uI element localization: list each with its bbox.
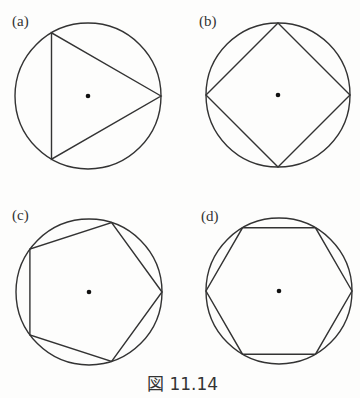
center-point-a [86, 94, 91, 99]
panel-b: (b) [199, 13, 350, 167]
panel-label-c: (c) [12, 207, 29, 224]
inscribed-pentagon [30, 223, 162, 362]
figure-caption: 図 11.14 [147, 374, 218, 394]
panel-label-d: (d) [201, 208, 219, 225]
panel-d: (d) [201, 208, 352, 364]
panel-a: (a) [12, 13, 161, 169]
panel-c: (c) [12, 207, 162, 365]
panel-label-b: (b) [199, 13, 217, 30]
center-point-c [87, 290, 92, 295]
figure-11-14: (a) (b) (c) (d) 図 11.14 [0, 0, 360, 398]
center-point-b [276, 93, 281, 98]
figure-canvas: (a) (b) (c) (d) 図 11.14 [0, 0, 360, 398]
inscribed-triangle [52, 33, 162, 159]
panel-label-a: (a) [12, 13, 29, 30]
center-point-d [277, 289, 282, 294]
